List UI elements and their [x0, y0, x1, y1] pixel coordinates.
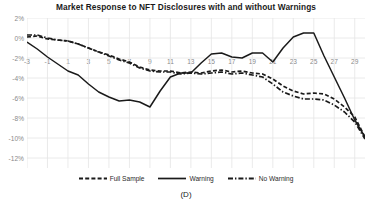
y-axis-tick: 2% [0, 15, 24, 22]
y-axis-tick: -8% [0, 115, 24, 122]
plot-wrapper: 2%0%-2%-4%-6%-8%-10%-12% -3-113579111315… [0, 14, 372, 166]
legend-swatch [228, 175, 256, 182]
chart-figure: Market Response to NFT Disclosures with … [0, 0, 372, 211]
legend-label: Warning [189, 175, 213, 182]
legend-swatch [158, 175, 186, 182]
series-line [27, 35, 365, 139]
series-line [27, 36, 365, 137]
legend-label: No Warning [259, 175, 294, 182]
legend-item[interactable]: Warning [158, 175, 213, 182]
chart-legend: Full SampleWarningNo Warning [0, 172, 372, 185]
y-axis-tick: -4% [0, 75, 24, 82]
panel-label: (D) [0, 190, 372, 199]
plot-area [27, 18, 365, 168]
chart-title: Market Response to NFT Disclosures with … [0, 2, 372, 12]
legend-item[interactable]: Full Sample [79, 175, 145, 182]
legend-label: Full Sample [110, 175, 145, 182]
y-axis-tick: 0% [0, 35, 24, 42]
legend-swatch [79, 175, 107, 182]
y-axis-tick: -6% [0, 95, 24, 102]
y-axis-tick: -10% [0, 135, 24, 142]
legend-item[interactable]: No Warning [228, 175, 294, 182]
series-line [27, 33, 365, 137]
y-axis-tick: -12% [0, 155, 24, 162]
series-lines [27, 18, 365, 168]
